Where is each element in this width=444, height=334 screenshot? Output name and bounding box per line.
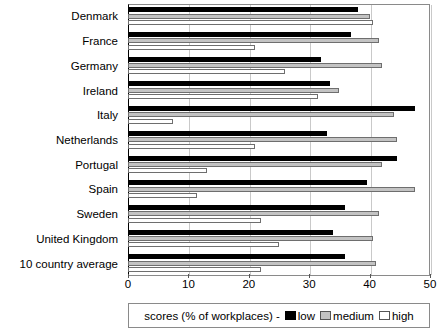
x-tick-30: 30: [303, 278, 316, 290]
gridline-50: [431, 5, 432, 275]
bar-group: [128, 4, 430, 29]
y-axis-label-united-kingdom: United Kingdom: [36, 233, 118, 245]
bar-group: [128, 177, 430, 202]
bar-medium: [128, 211, 379, 216]
x-tickmark-20: [249, 274, 250, 278]
chart-legend: scores (% of workplaces) - lowmediumhigh: [128, 303, 430, 328]
legend-swatch-low-icon: [285, 311, 296, 320]
y-axis-label-10-country-average: 10 country average: [20, 258, 118, 270]
bar-groups-container: [128, 4, 430, 276]
x-tickmark-40: [370, 274, 371, 278]
y-axis-label-germany: Germany: [71, 60, 118, 72]
bar-group: [128, 202, 430, 227]
legend-label-low: low: [298, 310, 315, 322]
bar-low: [128, 205, 345, 210]
y-axis-label-denmark: Denmark: [71, 10, 118, 22]
bar-high: [128, 218, 261, 223]
bar-medium: [128, 63, 382, 68]
legend-prefix-label: scores (% of workplaces) -: [144, 310, 279, 322]
y-axis-category-labels: DenmarkFranceGermanyIrelandItalyNetherla…: [0, 4, 124, 276]
legend-label-high: high: [392, 310, 414, 322]
bar-medium: [128, 38, 379, 43]
bar-medium: [128, 137, 397, 142]
y-axis-label-portugal: Portugal: [75, 159, 118, 171]
x-tick-10: 10: [182, 278, 195, 290]
bar-medium: [128, 162, 382, 167]
bar-group: [128, 152, 430, 177]
bar-high: [128, 193, 197, 198]
legend-swatch-high-icon: [379, 311, 390, 320]
y-axis-label-italy: Italy: [97, 109, 118, 121]
x-tick-20: 20: [242, 278, 255, 290]
legend-item-low[interactable]: low: [285, 310, 315, 322]
bar-low: [128, 81, 330, 86]
y-axis-label-sweden: Sweden: [76, 208, 118, 220]
x-axis-tick-labels: 01020304050: [128, 278, 430, 294]
bar-low: [128, 32, 351, 37]
bar-high: [128, 94, 318, 99]
bar-group: [128, 53, 430, 78]
bar-high: [128, 45, 255, 50]
x-tick-0: 0: [125, 278, 131, 290]
bar-low: [128, 156, 397, 161]
bar-high: [128, 242, 279, 247]
bar-low: [128, 131, 327, 136]
bar-group: [128, 103, 430, 128]
bar-low: [128, 254, 345, 259]
bar-medium: [128, 112, 394, 117]
legend-item-medium[interactable]: medium: [320, 310, 374, 322]
bar-medium: [128, 14, 370, 19]
bar-low: [128, 230, 333, 235]
bar-low: [128, 7, 358, 12]
x-tickmark-0: [128, 274, 129, 278]
legend-item-high[interactable]: high: [379, 310, 414, 322]
chart-title-strip: [128, 0, 430, 3]
bar-medium: [128, 261, 376, 266]
legend-label-medium: medium: [333, 310, 374, 322]
bar-high: [128, 267, 261, 272]
bar-high: [128, 144, 255, 149]
horizontal-bar-chart: DenmarkFranceGermanyIrelandItalyNetherla…: [0, 0, 444, 334]
y-axis-label-netherlands: Netherlands: [56, 134, 118, 146]
bar-group: [128, 128, 430, 153]
x-tickmark-30: [309, 274, 310, 278]
bar-low: [128, 106, 415, 111]
bar-low: [128, 57, 321, 62]
bar-medium: [128, 236, 373, 241]
bar-medium: [128, 88, 339, 93]
y-axis-label-france: France: [82, 35, 118, 47]
bar-group: [128, 251, 430, 276]
bar-group: [128, 78, 430, 103]
x-tickmark-10: [188, 274, 189, 278]
bar-high: [128, 69, 285, 74]
x-tick-50: 50: [424, 278, 437, 290]
x-tick-40: 40: [363, 278, 376, 290]
bar-group: [128, 226, 430, 251]
bar-high: [128, 168, 207, 173]
bar-group: [128, 29, 430, 54]
y-axis-label-ireland: Ireland: [83, 85, 118, 97]
y-axis-label-spain: Spain: [89, 183, 118, 195]
legend-swatch-medium-icon: [320, 311, 331, 320]
bar-medium: [128, 187, 415, 192]
x-tickmark-50: [430, 274, 431, 278]
bar-low: [128, 180, 367, 185]
bar-high: [128, 20, 373, 25]
bar-high: [128, 119, 173, 124]
